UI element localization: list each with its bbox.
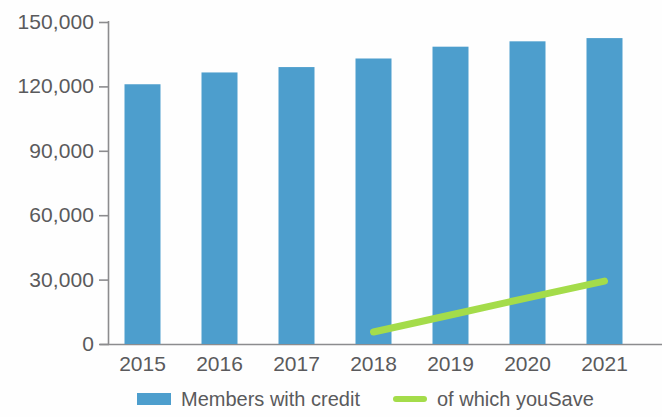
legend-label-members-with-credit: Members with credit: [181, 387, 360, 411]
y-axis-tick-label: 90,000: [2, 140, 94, 161]
bar-2015: [125, 84, 161, 344]
x-axis-labels: 2015201620172018201920202021: [0, 344, 662, 384]
bar-series-members-with-credit: [125, 38, 623, 344]
x-axis-tick-label: 2019: [411, 352, 491, 376]
x-axis-tick-label: 2016: [180, 352, 260, 376]
line-path-of-which-yousave: [374, 281, 605, 332]
legend-item-of-which-yousave[interactable]: of which youSave: [393, 386, 594, 412]
y-axis-tick-label: 120,000: [2, 75, 94, 96]
bar-2017: [279, 67, 315, 344]
y-axis-labels: 030,00060,00090,000120,000150,000: [0, 0, 94, 360]
plot-area: 030,00060,00090,000120,000150,000: [0, 0, 662, 360]
y-axis-tick-label: 30,000: [2, 269, 94, 290]
chart-container: 030,00060,00090,000120,000150,000 201520…: [0, 0, 662, 417]
legend-line-swatch-icon: [393, 396, 427, 402]
x-axis-tick-label: 2017: [257, 352, 337, 376]
bar-2019: [433, 47, 469, 344]
chart-legend: Members with credit of which youSave: [0, 386, 662, 417]
legend-bar-swatch-icon: [137, 393, 171, 405]
bar-2016: [202, 72, 238, 344]
bar-2018: [356, 58, 392, 344]
legend-label-of-which-yousave: of which youSave: [437, 387, 594, 411]
line-series-of-which-yousave: [374, 281, 605, 332]
y-axis-tick-marks: [99, 23, 109, 345]
x-axis-tick-label: 2015: [103, 352, 183, 376]
y-axis-tick-label: 60,000: [2, 204, 94, 225]
x-axis-tick-label: 2021: [565, 352, 645, 376]
y-axis-tick-label: 150,000: [2, 11, 94, 32]
x-axis-tick-label: 2020: [488, 352, 568, 376]
bar-2021: [587, 38, 623, 344]
chart-plot-svg: [0, 0, 662, 360]
x-axis-tick-label: 2018: [334, 352, 414, 376]
legend-item-members-with-credit[interactable]: Members with credit: [137, 386, 360, 412]
